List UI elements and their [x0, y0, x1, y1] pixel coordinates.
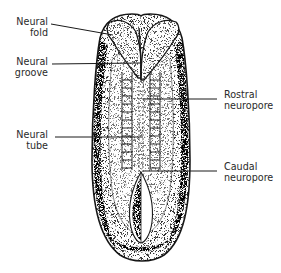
- label-neural-tube: Neural tube: [2, 129, 48, 151]
- label-neural-fold: Neural fold: [2, 16, 48, 38]
- label-rostral-neuropore: Rostral neuropore: [224, 89, 281, 111]
- label-neural-groove: Neural groove: [2, 56, 48, 78]
- label-caudal-neuropore: Caudal neuropore: [224, 161, 281, 183]
